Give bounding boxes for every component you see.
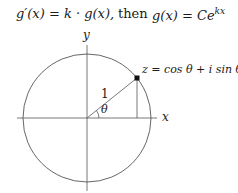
point-z-marker bbox=[135, 76, 140, 81]
angle-arc bbox=[96, 111, 99, 119]
radius-label: 1 bbox=[101, 87, 109, 101]
y-axis-label: y bbox=[82, 28, 90, 42]
radius-line bbox=[87, 78, 137, 118]
angle-label: θ bbox=[101, 103, 108, 116]
point-z-label: z = cos θ + i sin θ bbox=[141, 63, 238, 76]
unit-circle-diagram: y x 1 θ z = cos θ + i sin θ bbox=[0, 0, 238, 193]
x-axis-label: x bbox=[162, 110, 169, 124]
